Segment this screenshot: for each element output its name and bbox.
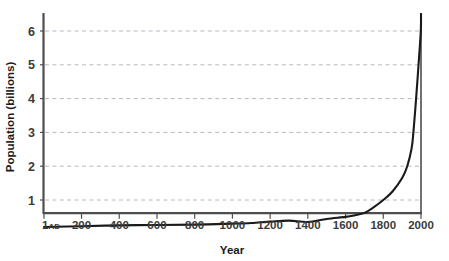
- x-tick-label-1400: 1400: [295, 219, 321, 231]
- x-tick-label-1600: 1600: [333, 219, 359, 231]
- y-tick-label-2: 2: [28, 160, 35, 174]
- x-tick-label-1800: 1800: [370, 219, 396, 231]
- population-chart: 123456 1AD200400600800100012001400160018…: [0, 0, 449, 261]
- x-tick-label-2000: 2000: [408, 219, 434, 231]
- y-tick-label-4: 4: [28, 92, 35, 106]
- x-tick-label-1000: 1000: [220, 219, 246, 231]
- y-tick-label-1: 1: [28, 194, 35, 208]
- x-axis-title: Year: [220, 244, 245, 256]
- x-tick-label-400: 400: [110, 219, 129, 231]
- y-tick-label-6: 6: [28, 25, 35, 39]
- x-tick-label-200: 200: [72, 219, 91, 231]
- y-tick-label-5: 5: [28, 58, 35, 72]
- x-tick-label-600: 600: [147, 219, 166, 231]
- chart-page: 123456 1AD200400600800100012001400160018…: [0, 0, 449, 261]
- y-axis-title: Population (billions): [4, 62, 16, 173]
- x-tick-label-800: 800: [185, 219, 204, 231]
- x-tick-label-1200: 1200: [257, 219, 283, 231]
- y-tick-label-3: 3: [28, 126, 35, 140]
